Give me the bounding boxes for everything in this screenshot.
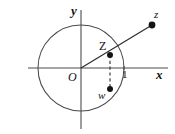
complex-plane-figure: y x O 1 Z w z [0,0,175,134]
y-axis-label: y [71,4,77,17]
point-z-marker [149,22,156,29]
origin-label: O [68,71,77,83]
x-axis-label: x [156,68,163,81]
ray-origin-to-z [81,25,152,68]
point-z-label: z [154,9,158,20]
point-Z-label: Z [99,40,106,52]
point-w-marker [107,86,113,92]
point-Z-marker [107,52,113,58]
figure-canvas [0,0,175,134]
unit-tick-label: 1 [122,69,128,80]
point-w-label: w [98,90,105,101]
